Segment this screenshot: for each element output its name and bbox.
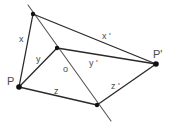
- edge-z-prime: [97, 64, 156, 105]
- edge-y-prime: [57, 48, 156, 64]
- label-y: y: [36, 54, 41, 64]
- edge-x: [19, 14, 33, 87]
- label-p: P: [7, 75, 14, 87]
- vertex-middle: [55, 46, 59, 50]
- label-y-prime: y ': [89, 58, 98, 68]
- point-p: [16, 84, 22, 90]
- label-x-prime: x ': [102, 31, 111, 41]
- label-z: z: [54, 86, 59, 96]
- edge-x-prime: [33, 14, 156, 64]
- label-o: o: [63, 64, 68, 74]
- label-p-prime: P': [153, 48, 162, 60]
- reflection-diagram: P P' o x y z x ' y ' z ': [0, 0, 173, 129]
- vertex-bottom: [95, 103, 99, 107]
- label-x: x: [19, 34, 24, 44]
- label-z-prime: z ': [111, 81, 120, 91]
- vertex-top: [31, 12, 35, 16]
- point-p-prime: [153, 61, 159, 67]
